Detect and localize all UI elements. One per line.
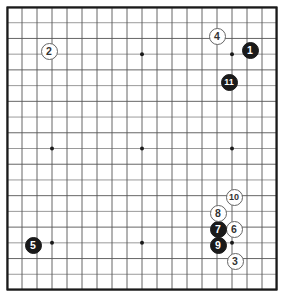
stone-move-number: 1 [247, 44, 253, 55]
stone-white-10[interactable]: 10 [226, 189, 243, 206]
stone-move-number: 6 [231, 223, 237, 234]
stone-white-4[interactable]: 4 [209, 28, 226, 45]
stone-move-number: 7 [215, 223, 221, 234]
go-diagram: 1234567891011 [0, 0, 284, 297]
stone-black-11[interactable]: 11 [221, 74, 238, 91]
stone-black-5[interactable]: 5 [25, 237, 42, 254]
stone-move-number: 8 [215, 207, 221, 218]
stone-black-1[interactable]: 1 [242, 42, 259, 59]
star-point [50, 147, 54, 151]
star-point [230, 147, 234, 151]
stone-white-3[interactable]: 3 [227, 253, 244, 270]
star-point [140, 52, 144, 56]
star-point [140, 147, 144, 151]
stone-move-number: 10 [229, 192, 239, 201]
star-point [230, 52, 234, 56]
stone-white-6[interactable]: 6 [226, 221, 243, 238]
star-point [140, 241, 144, 245]
stone-move-number: 4 [214, 30, 220, 41]
stone-move-number: 11 [224, 77, 234, 86]
stone-move-number: 5 [30, 239, 36, 250]
stone-move-number: 3 [232, 255, 238, 266]
stone-move-number: 2 [46, 45, 52, 56]
stone-black-9[interactable]: 9 [210, 237, 227, 254]
stone-white-8[interactable]: 8 [210, 205, 227, 222]
stone-white-2[interactable]: 2 [41, 43, 58, 60]
stone-move-number: 9 [215, 239, 221, 250]
stone-black-7[interactable]: 7 [210, 221, 227, 238]
star-point [50, 241, 54, 245]
star-point [230, 241, 234, 245]
